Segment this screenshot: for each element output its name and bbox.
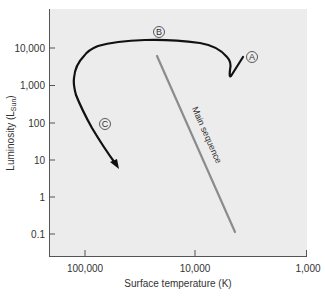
- y-tick-label: 0.1: [31, 229, 45, 240]
- svg-text:B: B: [156, 27, 162, 37]
- hr-diagram-chart: 10,000 1,000 100 10 1 0.1 100,000 10,000…: [0, 0, 325, 296]
- x-tick-label: 1,000: [295, 263, 320, 274]
- y-ticks: 10,000 1,000 100 10 1 0.1: [14, 43, 55, 240]
- y-tick-label: 10,000: [14, 43, 45, 54]
- y-tick-label: 100: [28, 118, 45, 129]
- x-tick-label: 100,000: [67, 263, 104, 274]
- y-tick-label: 1,000: [20, 80, 45, 91]
- svg-text:Luminosity (LSun): Luminosity (LSun): [5, 95, 17, 170]
- y-tick-label: 1: [39, 192, 45, 203]
- plot-area: [49, 9, 307, 256]
- x-tick-label: 10,000: [180, 263, 211, 274]
- svg-text:C: C: [102, 119, 109, 129]
- y-axis-title: Luminosity (LSun): [5, 95, 17, 170]
- svg-text:A: A: [249, 52, 255, 62]
- x-axis-title: Surface temperature (K): [124, 278, 231, 289]
- y-tick-label: 10: [34, 155, 46, 166]
